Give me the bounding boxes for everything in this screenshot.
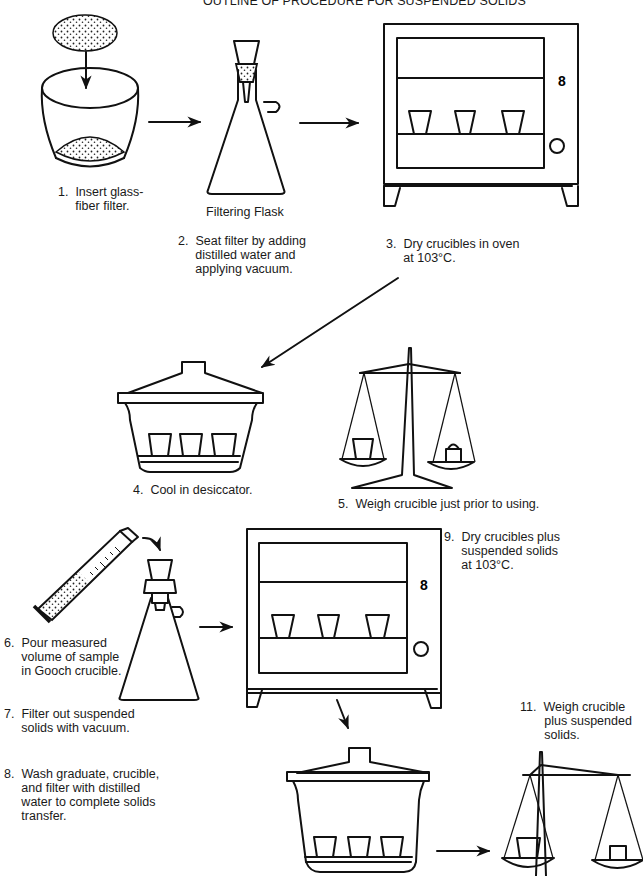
filtering-flask-icon: [208, 41, 285, 194]
filtering-flask-caption: Filtering Flask: [206, 205, 284, 219]
step-4-label: 4. Cool in desiccator.: [133, 483, 253, 497]
drying-oven-icon: 8: [384, 24, 578, 206]
step-9-label: 9. Dry crucibles plus suspended solids a…: [444, 530, 560, 572]
filtering-flask-gooch-icon: [120, 560, 199, 700]
step-6-label: 6. Pour measured volume of sample in Goo…: [4, 636, 121, 678]
desiccator-icon: [287, 748, 429, 872]
step-8-label: 8. Wash graduate, crucible, and filter w…: [4, 767, 159, 823]
drying-oven-icon: 8: [247, 529, 441, 708]
flow-arrow-icon: [262, 278, 398, 367]
balance-scale-icon: [502, 752, 643, 876]
procedure-illustration: 8: [0, 0, 643, 876]
svg-text:8: 8: [420, 577, 428, 593]
flow-arrow-icon: [337, 700, 348, 728]
step-7-label: 7. Filter out suspended solids with vacu…: [4, 707, 135, 735]
step-2-label: 2. Seat filter by adding distilled water…: [178, 234, 306, 276]
svg-text:8: 8: [558, 73, 566, 89]
crucible-with-filter-icon: [42, 15, 138, 167]
step-5-label: 5. Weigh crucible just prior to using.: [338, 497, 539, 511]
desiccator-icon: [118, 362, 263, 472]
step-1-label: 1. Insert glass- fiber filter.: [58, 185, 143, 213]
graduated-cylinder-icon: [34, 528, 160, 622]
step-11-label: 11. Weigh crucible plus suspended solids…: [520, 700, 632, 742]
step-3-label: 3. Dry crucibles in oven at 103°C.: [386, 237, 519, 265]
balance-scale-icon: [340, 348, 475, 488]
